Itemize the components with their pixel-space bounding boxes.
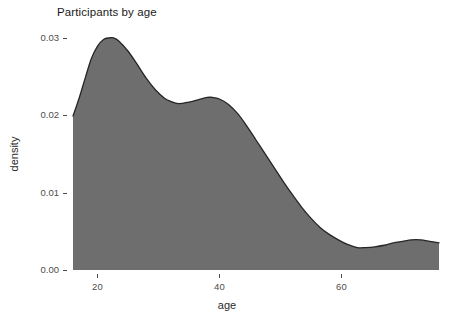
- density-area-series: [0, 0, 454, 322]
- density-chart: Participants by age density age 0.000.01…: [0, 0, 454, 322]
- density-area-fill: [73, 38, 439, 270]
